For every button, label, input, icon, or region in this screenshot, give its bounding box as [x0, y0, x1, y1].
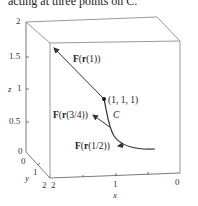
vector-F-r1-2	[118, 145, 124, 146]
label-F-r3-4: F(r(3/4))	[53, 111, 88, 121]
x-tick-1: 1	[113, 180, 118, 189]
y-axis-label: y	[25, 174, 29, 183]
z-tick-0.5: 0.5	[9, 117, 20, 126]
x-tick-0: 0	[175, 178, 180, 187]
label-curve-c: C	[113, 111, 119, 121]
y-tick-0: 0	[21, 157, 26, 166]
curve-c	[104, 99, 155, 149]
label-F-r1-2: F(r(1/2))	[75, 142, 110, 152]
y-tick-2: 2	[42, 181, 47, 190]
x-axis-label: x	[113, 191, 117, 200]
x-tick-2: 2	[51, 181, 56, 190]
figure-canvas	[0, 0, 198, 206]
z-tick-1.5: 1.5	[9, 52, 20, 61]
z-axis-label: z	[8, 85, 12, 94]
z-tick-0: 0	[18, 147, 23, 156]
y-tick-1: 1	[33, 168, 38, 177]
label-point: (1, 1, 1)	[108, 96, 138, 106]
z-tick-2: 2	[16, 17, 21, 26]
label-F-r1: F(r(1))	[73, 55, 100, 65]
z-tick-1: 1	[17, 84, 22, 93]
